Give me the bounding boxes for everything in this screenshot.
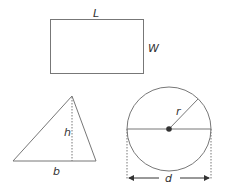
- triangle-figure: h b: [13, 96, 96, 178]
- base-label: b: [53, 165, 60, 178]
- circle-figure: r d: [127, 87, 211, 185]
- width-label: W: [148, 42, 160, 55]
- height-label: h: [64, 126, 71, 139]
- center-dot: [166, 126, 172, 132]
- diameter-label: d: [165, 172, 173, 185]
- geometry-diagram: L W h b r d: [0, 0, 226, 185]
- rectangle-figure: L W: [51, 7, 161, 74]
- radius-line: [169, 99, 198, 129]
- length-label: L: [93, 7, 99, 20]
